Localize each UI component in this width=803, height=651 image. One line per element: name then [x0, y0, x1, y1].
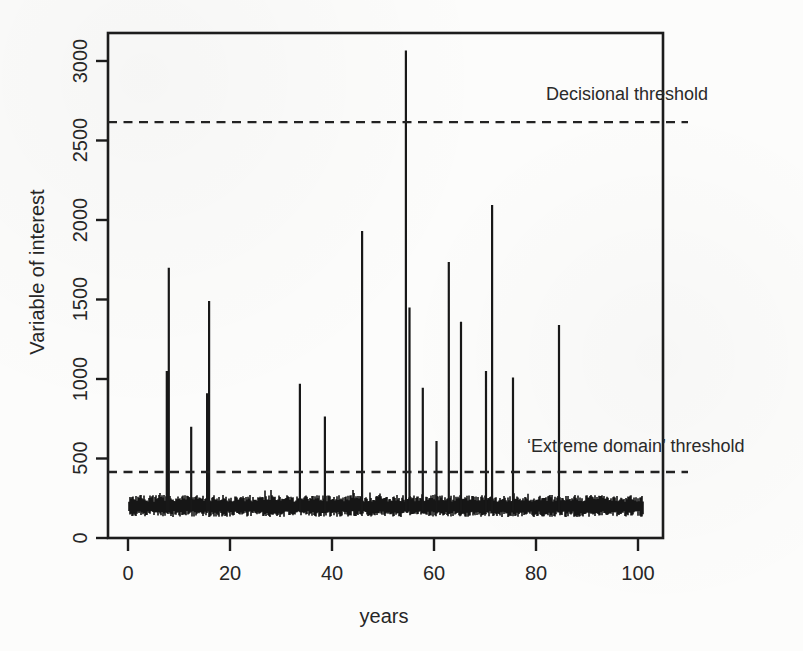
y-tick-label: 1500: [69, 277, 92, 322]
x-tick-label: 80: [525, 562, 547, 585]
y-tick-label: 0: [69, 532, 92, 543]
x-tick-label: 20: [219, 562, 241, 585]
x-tick-label: 100: [621, 562, 654, 585]
y-axis-title: Variable of interest: [26, 189, 49, 354]
y-tick-label: 500: [69, 442, 92, 475]
x-axis-title: years: [360, 605, 409, 628]
x-tick-label: 60: [423, 562, 445, 585]
decisional-threshold-label: Decisional threshold: [546, 84, 708, 105]
y-tick-label: 2500: [69, 118, 92, 163]
x-tick-label: 0: [122, 562, 133, 585]
event-spikes: [167, 51, 559, 511]
y-tick-label: 1000: [69, 357, 92, 402]
figure: Variable of interest years Decisional th…: [0, 0, 803, 651]
y-tick-label: 2000: [69, 198, 92, 243]
extreme-domain-threshold-label: ‘Extreme domain’ threshold: [527, 436, 744, 457]
x-tick-label: 40: [321, 562, 343, 585]
y-tick-label: 3000: [69, 39, 92, 84]
